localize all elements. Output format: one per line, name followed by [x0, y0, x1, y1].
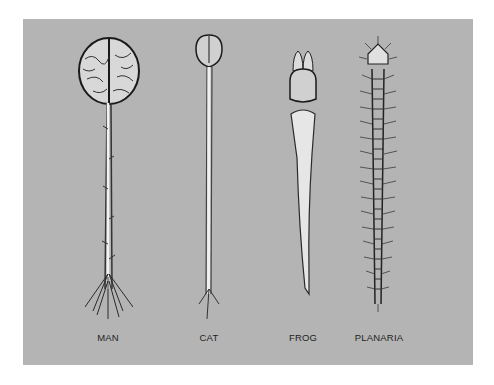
label-man: MAN [97, 332, 119, 343]
nervous-systems-illustration [23, 19, 473, 365]
illustration-panel: MAN CAT FROG PLANARIA [23, 19, 473, 365]
planaria-nervous-system [359, 36, 397, 312]
man-nervous-system [79, 38, 139, 319]
cat-nervous-system [196, 35, 222, 319]
label-cat: CAT [200, 332, 219, 343]
frog-nervous-system [290, 51, 316, 294]
label-planaria: PLANARIA [355, 332, 404, 343]
label-frog: FROG [289, 332, 317, 343]
